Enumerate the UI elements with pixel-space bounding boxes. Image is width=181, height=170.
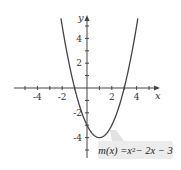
x-tick-label: 2	[109, 92, 115, 102]
y-tick-label: -4	[73, 133, 82, 143]
y-axis-arrow-icon	[85, 15, 90, 21]
x-axis-label: x	[155, 90, 161, 101]
x-tick-label: 4	[134, 92, 140, 102]
x-tick-label: -4	[33, 92, 42, 102]
x-tick-label: -2	[58, 92, 67, 102]
y-tick-label: 4	[76, 34, 82, 44]
callout-connector	[110, 130, 124, 141]
y-axis-label: y	[77, 12, 84, 23]
y-tick-label: 2	[76, 58, 82, 68]
parabola-curve	[61, 18, 138, 137]
legend-lhs: m(x) =	[98, 145, 127, 156]
legend-rest: − 2x − 3	[135, 145, 172, 156]
function-label: m(x) = x2 − 2x − 3	[98, 141, 173, 159]
